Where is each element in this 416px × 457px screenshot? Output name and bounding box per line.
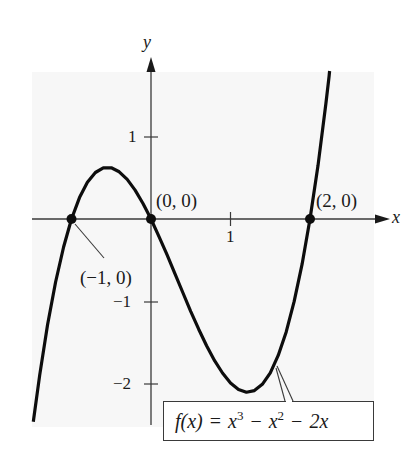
x-axis-label: x [392, 208, 400, 226]
equation-term1-base: x [228, 410, 237, 432]
y-tick-label-neg2: −2 [113, 375, 131, 392]
y-tick-label-neg1: −1 [113, 293, 131, 310]
point-label-0-0: (0, 0) [156, 191, 197, 210]
equation-minus2: − [284, 410, 309, 432]
equation-box-callout-gap [286, 400, 292, 403]
function-equation: f(x)=x3−x2−2x [175, 410, 328, 433]
equation-term3: 2x [309, 410, 328, 432]
equation-lhs: f(x) [175, 410, 203, 432]
y-tick-label-1: 1 [128, 128, 137, 145]
y-axis-label: y [143, 33, 151, 51]
equation-term2-base: x [269, 410, 278, 432]
x-axis-arrow-icon [375, 215, 390, 224]
y-axis-arrow-icon [147, 57, 156, 72]
equation-minus1: − [243, 410, 268, 432]
equation-equals: = [203, 410, 228, 432]
function-graph: y x 1 1 −1 −2 (−1, 0) (0, 0) (2, 0) f(x)… [0, 0, 416, 457]
point-label-neg1-0: (−1, 0) [80, 268, 132, 287]
point-neg1-0 [67, 214, 77, 224]
plot-area [0, 0, 416, 457]
point-2-0 [305, 214, 315, 224]
function-equation-box: f(x)=x3−x2−2x [163, 401, 374, 441]
x-tick-label-1: 1 [226, 228, 235, 245]
point-label-2-0: (2, 0) [316, 191, 357, 210]
point-0-0 [146, 214, 156, 224]
